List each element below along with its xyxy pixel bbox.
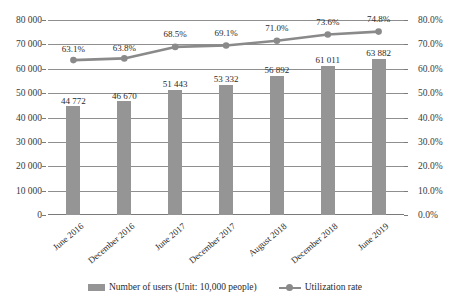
right-y-tick: 20.0% (418, 161, 443, 171)
line-marker (375, 28, 382, 35)
left-y-tick-mark (42, 118, 46, 119)
left-y-tick: 60 000 (16, 64, 42, 74)
legend-label: Number of users (Unit: 10,000 people) (109, 282, 257, 292)
bar-value-label: 56 892 (265, 65, 290, 75)
line-marker (172, 44, 179, 51)
line-value-label: 63.8% (113, 43, 136, 53)
right-y-tick: 40.0% (418, 113, 443, 123)
right-y-tick: 80.0% (418, 15, 443, 25)
left-y-tick: 80 000 (16, 15, 42, 25)
right-y-tick: 70.0% (418, 39, 443, 49)
right-y-tick-mark (404, 118, 408, 119)
right-y-tick-mark (404, 93, 408, 94)
right-y-tick: 50.0% (418, 88, 443, 98)
right-y-tick: 0.0% (418, 210, 438, 220)
line-marker (325, 31, 332, 38)
left-y-tick-mark (42, 166, 46, 167)
chart-container: 80 000 70 000 60 000 50 000 40 000 30 00… (0, 0, 450, 306)
x-axis-tick-label: August 2018 (247, 221, 289, 258)
line-value-label: 71.0% (265, 23, 288, 33)
plot-area: 44 772 46 670 51 443 53 332 56 892 61 01… (48, 20, 404, 215)
left-y-tick-mark (42, 44, 46, 45)
right-y-tick-mark (404, 44, 408, 45)
bar-value-label: 46 670 (112, 91, 137, 101)
left-y-tick: 70 000 (16, 39, 42, 49)
right-y-tick-mark (404, 166, 408, 167)
left-y-tick: 50 000 (16, 88, 42, 98)
bar-swatch-icon (88, 284, 105, 291)
bar-value-label: 51 443 (163, 79, 188, 89)
line-swatch-icon (279, 283, 301, 292)
right-y-tick-mark (404, 69, 408, 70)
left-y-tick: 30 000 (16, 137, 42, 147)
left-y-tick-mark (42, 142, 46, 143)
right-y-tick-mark (404, 142, 408, 143)
left-y-axis: 80 000 70 000 60 000 50 000 40 000 30 00… (0, 0, 46, 306)
x-axis-tick-label: December 2016 (86, 221, 136, 265)
legend-item-utilization-rate[interactable]: Utilization rate (279, 282, 362, 292)
x-axis-tick-label: December 2017 (187, 221, 237, 265)
line-marker (70, 57, 77, 64)
utilization-rate-line (48, 20, 404, 215)
left-y-tick-mark (42, 215, 46, 216)
x-axis-tick-label: June 2016 (51, 221, 86, 252)
line-marker (223, 42, 230, 49)
x-axis-tick-label: December 2018 (289, 221, 339, 265)
bar-value-label: 61 011 (316, 55, 340, 65)
left-y-tick-mark (42, 93, 46, 94)
left-y-tick-mark (42, 191, 46, 192)
bar-value-label: 63 882 (366, 48, 391, 58)
legend-item-number-of-users[interactable]: Number of users (Unit: 10,000 people) (88, 282, 257, 292)
right-y-tick: 60.0% (418, 64, 443, 74)
legend-label: Utilization rate (305, 282, 362, 292)
line-marker (121, 55, 128, 62)
right-y-tick-mark (404, 191, 408, 192)
chart-legend: Number of users (Unit: 10,000 people) Ut… (0, 282, 450, 292)
right-y-tick-mark (404, 20, 408, 21)
right-y-tick: 30.0% (418, 137, 443, 147)
line-marker (274, 38, 281, 45)
left-y-tick: 40 000 (16, 113, 42, 123)
line-value-label: 74.8% (367, 14, 390, 24)
left-y-tick-mark (42, 20, 46, 21)
left-y-tick-mark (42, 69, 46, 70)
right-y-tick: 10.0% (418, 186, 443, 196)
line-value-label: 73.6% (316, 17, 339, 27)
left-y-tick: 10 000 (16, 186, 42, 196)
x-axis-tick-label: June 2017 (153, 221, 188, 252)
bar-value-label: 53 332 (214, 74, 239, 84)
bar-value-label: 44 772 (61, 96, 86, 106)
line-value-label: 69.1% (214, 28, 237, 38)
line-value-label: 68.5% (164, 29, 187, 39)
line-value-label: 63.1% (62, 44, 85, 54)
x-axis-tick-label: June 2019 (356, 221, 391, 252)
left-y-tick: 20 000 (16, 161, 42, 171)
right-y-axis: 80.0% 70.0% 60.0% 50.0% 40.0% 30.0% 20.0… (404, 0, 450, 306)
right-y-tick-mark (404, 215, 408, 216)
